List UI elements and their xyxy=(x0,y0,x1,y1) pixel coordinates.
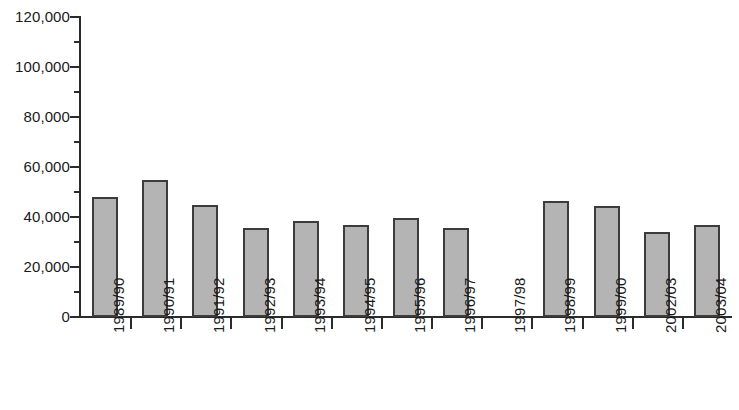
x-axis-tick xyxy=(230,318,232,329)
x-axis-tick-label-text: 1998/99 xyxy=(562,277,577,333)
x-axis-tick xyxy=(180,318,182,329)
x-axis-tick-label-text: 1996/97 xyxy=(462,277,477,333)
x-axis-tick xyxy=(431,318,433,329)
x-axis-tick-label-text: 2003/04 xyxy=(713,277,728,333)
bar-chart: 020,00040,00060,00080,000100,000120,000 … xyxy=(0,0,739,410)
y-axis-tick-label-text: 40,000 xyxy=(2,209,70,224)
x-axis-tick xyxy=(582,318,584,329)
x-axis-tick xyxy=(130,318,132,329)
x-axis-tick-label-text: 1991/92 xyxy=(211,277,226,333)
y-axis-tick xyxy=(70,266,80,268)
y-axis-tick-label-text: 60,000 xyxy=(2,159,70,174)
x-axis-tick-label-text: 1989/90 xyxy=(111,277,126,333)
y-axis-tick-label-text: 80,000 xyxy=(2,109,70,124)
plot-area-bars xyxy=(80,17,732,317)
x-axis-tick-label-text: 1992/93 xyxy=(262,277,277,333)
y-axis-tick xyxy=(70,66,80,68)
x-axis-tick xyxy=(682,318,684,329)
y-axis-tick-label-text: 120,000 xyxy=(2,9,70,24)
x-axis-tick-label-text: 1994/95 xyxy=(362,277,377,333)
x-axis-tick-label-text: 1999/00 xyxy=(613,277,628,333)
x-axis-tick xyxy=(481,318,483,329)
y-axis-tick-label-text: 20,000 xyxy=(2,259,70,274)
x-axis-tick-label-text: 1997/98 xyxy=(512,277,527,333)
x-axis-tick xyxy=(381,318,383,329)
x-axis-tick-label-text: 1990/91 xyxy=(161,277,176,333)
y-axis-tick-label-text: 0 xyxy=(2,309,70,324)
x-axis-tick-label-text: 1993/94 xyxy=(312,277,327,333)
x-axis-tick xyxy=(632,318,634,329)
y-axis-tick xyxy=(70,16,80,18)
y-axis-tick xyxy=(70,166,80,168)
x-axis-tick xyxy=(281,318,283,329)
y-axis-tick xyxy=(70,216,80,218)
y-axis-tick xyxy=(70,116,80,118)
x-axis-tick xyxy=(531,318,533,329)
y-axis-tick-label-text: 100,000 xyxy=(2,59,70,74)
x-axis-tick-label-text: 1995/96 xyxy=(412,277,427,333)
y-axis-tick xyxy=(70,316,80,318)
x-axis-tick xyxy=(331,318,333,329)
x-axis-tick-label-text: 2002/03 xyxy=(663,277,678,333)
